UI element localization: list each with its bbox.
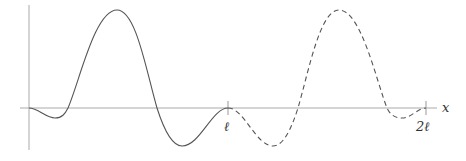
diagram-canvas: x ℓ 2ℓ [0,0,466,161]
dashed-curve [228,10,426,146]
tick-label-l: ℓ [224,119,230,134]
solid-curve [29,10,228,146]
tick-label-2l: 2ℓ [415,119,430,134]
x-axis-label: x [442,100,450,115]
